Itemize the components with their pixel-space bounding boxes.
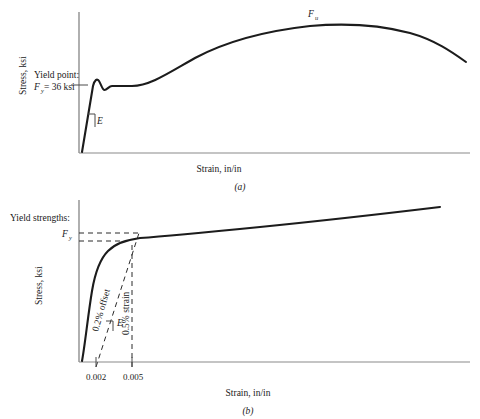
chart-b-strain-label: 0.5% strain xyxy=(121,291,131,335)
chart-a-modulus-label: E xyxy=(96,116,103,126)
chart-a-y-axis-title: Stress, ksi xyxy=(18,56,28,95)
chart-b-y-axis-title: Stress, ksi xyxy=(34,266,44,305)
chart-b-fy-subscript: y xyxy=(68,234,72,241)
chart-b-yield-strengths-label: Yield strengths: xyxy=(10,213,70,223)
chart-b-fy-symbol: F xyxy=(61,229,68,239)
chart-a: Yield point: F y = 36 ksi E F u Stress, … xyxy=(0,0,480,195)
chart-b-x-axis-title: Strain, in/in xyxy=(226,388,271,398)
chart-b: 0.002 0.005 E 0.2% offset 0.5% strain Yi… xyxy=(0,195,480,419)
chart-a-fu-subscript: u xyxy=(315,14,318,21)
chart-b-curve xyxy=(82,207,440,361)
chart-a-caption: (a) xyxy=(234,182,245,193)
chart-b-caption: (b) xyxy=(242,406,253,417)
chart-a-curve xyxy=(82,25,466,152)
chart-a-x-axis-title: Strain, in/in xyxy=(197,164,242,174)
chart-a-fu-symbol: F xyxy=(307,9,314,19)
chart-b-xtick-label-2: 0.005 xyxy=(123,372,144,382)
chart-a-yield-point-label: Yield point: xyxy=(34,70,79,80)
chart-b-offset-label: 0.2% offset xyxy=(90,288,112,333)
chart-a-fy-value: = 36 ksi xyxy=(44,82,75,92)
chart-a-fy-symbol: F xyxy=(33,82,40,92)
chart-b-modulus-slope-mark xyxy=(106,321,113,331)
chart-b-xtick-label-1: 0.002 xyxy=(86,372,106,382)
stress-strain-figure: Yield point: F y = 36 ksi E F u Stress, … xyxy=(0,0,480,419)
